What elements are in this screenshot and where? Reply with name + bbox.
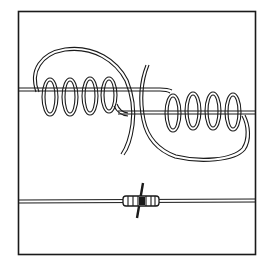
center-tail-wire	[140, 65, 250, 161]
lower-wire	[118, 111, 255, 114]
loose-splice	[19, 47, 255, 161]
right-coils	[165, 92, 241, 132]
left-loop-wire	[34, 47, 135, 155]
left-coils	[42, 77, 128, 116]
wire-splice-illustration	[0, 0, 269, 269]
wrap-coil	[123, 196, 159, 206]
frame-border	[19, 12, 256, 255]
finished-splice	[19, 183, 255, 218]
